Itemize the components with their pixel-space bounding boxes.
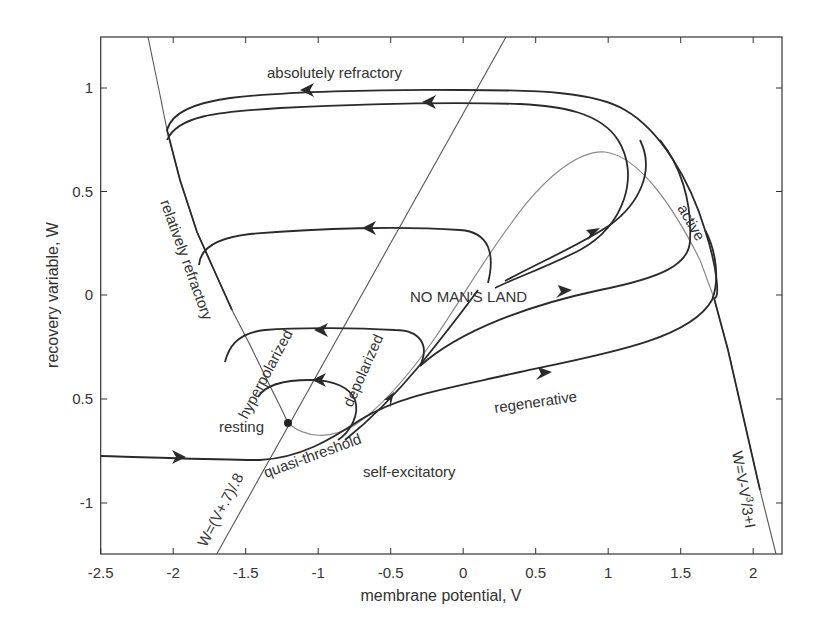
label-linear-nullcline: W=(V+.7)/.8: [194, 470, 247, 549]
label-regenerative: regenerative: [493, 388, 578, 416]
x-tick-label: 0.5: [525, 564, 546, 581]
y-tick-labels: 1 0.5 0 0.5 -1: [72, 79, 93, 511]
x-tick-label: -0.5: [378, 564, 404, 581]
trajectory-mid: [199, 228, 491, 283]
arrow-left-icon: [312, 373, 326, 387]
x-tick-label: 1: [604, 564, 612, 581]
arrow-left-icon: [300, 83, 314, 97]
arrow-right-icon: [556, 285, 572, 298]
label-self-excitatory: self-excitatory: [363, 463, 456, 480]
x-axis-label: membrane potential, V: [361, 587, 522, 604]
y-tick-label: 0: [85, 286, 93, 303]
label-relatively-refractory: relatively refractory: [157, 197, 216, 322]
arrow-left-icon: [314, 323, 328, 337]
phase-plane-figure: -2.5 -2 -1.5 -1 -0.5 0 0.5 1 1.5 2 1 0.5…: [0, 0, 824, 637]
x-tick-label: 0: [459, 564, 467, 581]
label-absolutely-refractory: absolutely refractory: [267, 64, 403, 81]
y-axis-label: recovery variable, W: [44, 221, 61, 368]
label-cubic-nullcline: W=V-V3/3+I: [729, 449, 760, 529]
x-tick-label: -2: [167, 564, 180, 581]
y-tick-label: 0.5: [72, 183, 93, 200]
y-tick-label: 1: [85, 79, 93, 96]
y-tick-label: -1: [80, 494, 93, 511]
y-tick-label: 0.5: [72, 390, 93, 407]
annotations: absolutely refractory relatively refract…: [157, 64, 760, 549]
arrow-right-icon: [172, 450, 186, 464]
x-tick-label: -2.5: [88, 564, 114, 581]
label-hyperpolarized: hyperpolarized: [235, 327, 296, 422]
label-depolarized: depolarized: [339, 331, 386, 409]
label-no-mans-land: NO MAN'S LAND: [410, 288, 527, 305]
x-tick-label: -1.5: [233, 564, 259, 581]
label-resting: resting: [219, 418, 264, 435]
label-quasi-threshold: quasi-threshold: [261, 430, 363, 481]
trajectory-top-2: [167, 103, 628, 288]
trajectory-nml-right: [505, 140, 646, 281]
x-tick-labels: -2.5 -2 -1.5 -1 -0.5 0 0.5 1 1.5 2: [88, 564, 758, 581]
trajectory-top-1: [167, 90, 462, 310]
x-tick-label: 2: [749, 564, 757, 581]
arrow-left-icon: [422, 95, 436, 109]
x-tick-label: -1: [312, 564, 325, 581]
x-tick-label: 1.5: [670, 564, 691, 581]
resting-point: [284, 419, 292, 427]
